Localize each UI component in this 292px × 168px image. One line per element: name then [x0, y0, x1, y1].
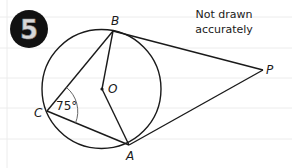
geometry-diagram: 5 Not drawn accurately 75° B O C A P [0, 0, 292, 168]
centre-dot [100, 87, 103, 90]
note-line-2: accurately [195, 23, 253, 36]
radius-oa [102, 89, 129, 145]
note-line-1: Not drawn [196, 8, 253, 21]
label-p: P [266, 63, 274, 77]
question-number: 5 [20, 15, 38, 45]
question-number-badge: 5 [10, 10, 48, 48]
chord-ca [47, 111, 129, 145]
label-a: A [125, 149, 134, 163]
tangent-pb [113, 31, 263, 70]
label-b: B [111, 14, 119, 28]
label-c: C [34, 106, 43, 120]
label-o: O [108, 82, 117, 96]
radius-ob [102, 31, 113, 89]
angle-c-label: 75° [56, 99, 77, 113]
